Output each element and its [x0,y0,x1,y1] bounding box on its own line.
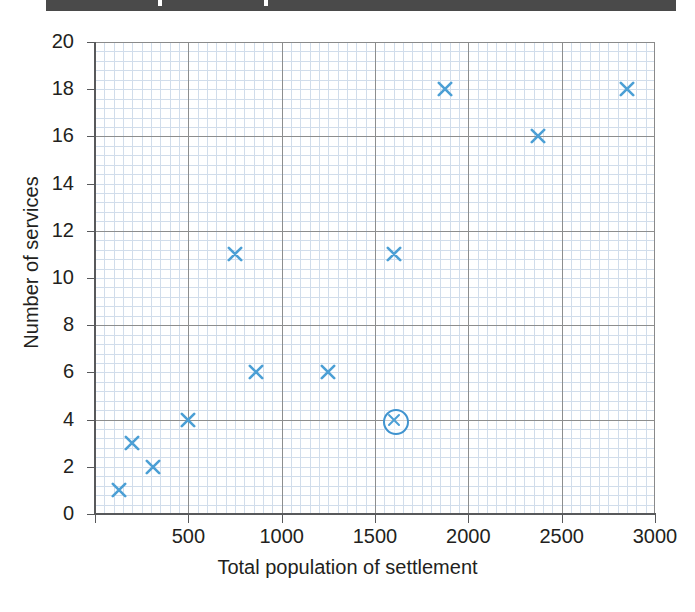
y-tick [87,325,94,326]
y-axis-line [94,42,96,515]
x-tick [562,515,563,523]
major-gridlines [95,42,655,514]
data-point [530,128,546,144]
y-tick [87,278,94,279]
data-point [124,435,140,451]
x-tick [375,515,376,523]
x-tick [188,515,189,523]
data-point [111,482,127,498]
x-tick [655,515,656,523]
data-point [227,246,243,262]
x-axis-title: Total population of settlement [0,556,695,579]
x-tick [95,515,96,523]
x-tick [282,515,283,523]
y-tick-label: 0 [16,503,74,523]
data-point [320,364,336,380]
x-tick-label: 2500 [522,526,602,546]
plot-area [95,42,655,514]
y-tick-label: 20 [16,31,74,51]
data-point-highlighted [386,412,402,428]
y-tick [87,184,94,185]
y-tick-label: 2 [16,456,74,476]
data-point [248,364,264,380]
x-tick [468,515,469,523]
y-tick [87,372,94,373]
data-point [145,459,161,475]
data-point [180,412,196,428]
y-tick [87,136,94,137]
y-tick [87,42,94,43]
data-point [386,246,402,262]
y-tick [87,420,94,421]
y-tick [87,467,94,468]
y-tick [87,514,94,515]
x-tick-label: 1500 [335,526,415,546]
x-tick-label: 3000 [615,526,695,546]
x-tick-label: 1000 [242,526,322,546]
y-tick-label: 18 [16,78,74,98]
data-point [619,81,635,97]
data-point [437,81,453,97]
y-tick [87,231,94,232]
y-tick [87,89,94,90]
x-tick-label: 500 [148,526,228,546]
x-tick-label: 2000 [428,526,508,546]
y-axis-title: Number of services [20,113,43,413]
scatter-chart: 02468101214161820 5001000150020002500300… [0,0,695,612]
